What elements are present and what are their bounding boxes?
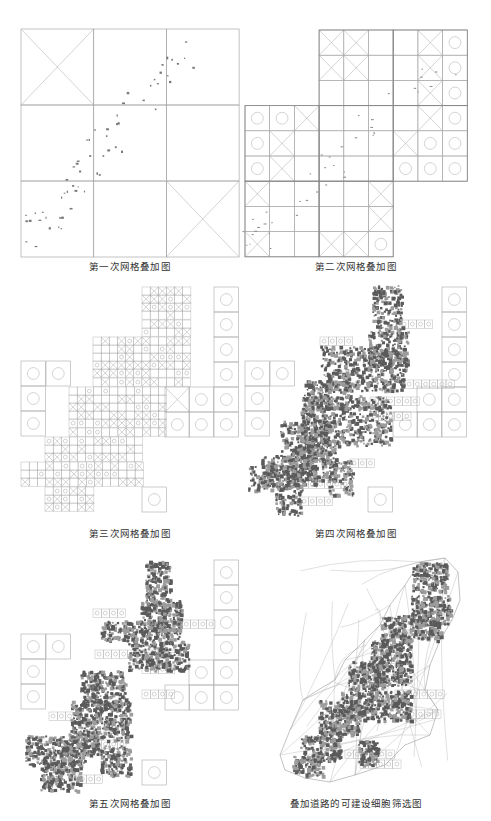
dense-cell — [402, 646, 405, 649]
dense-cell — [425, 604, 428, 607]
dense-cell — [305, 764, 308, 767]
dense-cell — [422, 586, 424, 588]
dense-cell — [429, 623, 433, 627]
dense-cell — [404, 629, 406, 631]
dense-cell — [374, 697, 377, 700]
dense-cell — [374, 763, 376, 765]
dense-cell — [370, 703, 372, 705]
circle-mark-icon — [388, 752, 392, 756]
dense-cell — [327, 731, 329, 733]
dense-cell — [401, 661, 403, 663]
dense-cell — [405, 660, 408, 663]
dense-cell — [383, 652, 386, 655]
dense-cell — [413, 567, 416, 570]
dense-cell — [349, 672, 351, 674]
dense-cell — [312, 755, 315, 758]
dense-cell — [439, 590, 442, 593]
dense-cell — [407, 653, 410, 656]
dense-cell — [431, 619, 433, 621]
dense-cell — [384, 627, 387, 630]
dense-cell — [308, 774, 311, 777]
dense-cell — [311, 747, 314, 750]
dense-cell — [418, 624, 422, 628]
dense-cell — [429, 570, 431, 572]
dense-cell — [412, 587, 414, 589]
dense-cell — [386, 640, 389, 643]
dense-cell — [353, 673, 355, 675]
dense-cell — [335, 753, 337, 755]
dense-cell — [354, 701, 358, 705]
dense-cell — [404, 653, 406, 655]
dense-cell — [373, 654, 375, 656]
caption-road-overlay: 叠加道路的可建设细胞筛选图 — [290, 796, 423, 810]
circle-mark-icon — [422, 692, 426, 696]
dense-cell — [416, 600, 419, 603]
dense-cell — [319, 741, 322, 744]
dense-cell — [337, 713, 339, 715]
dense-cell — [401, 702, 404, 705]
dense-cell — [402, 628, 404, 630]
dense-cell — [334, 709, 337, 712]
dense-cell — [372, 688, 376, 692]
dense-cell — [316, 748, 319, 751]
dense-cell — [390, 631, 392, 633]
dense-cell — [391, 684, 394, 687]
dense-cell — [420, 630, 423, 633]
dense-cell — [376, 715, 379, 718]
dense-cell — [400, 708, 403, 711]
dense-cell — [446, 617, 450, 621]
dense-cell — [449, 598, 451, 600]
dense-cell — [304, 754, 306, 756]
dense-cell — [427, 584, 430, 587]
dense-cell — [400, 681, 402, 683]
dense-cell — [353, 682, 356, 685]
dense-cell — [384, 624, 387, 627]
dense-cell — [327, 749, 329, 751]
dense-cell — [449, 606, 452, 609]
dense-cell — [318, 768, 320, 770]
dense-cell — [317, 775, 319, 777]
dense-cell — [322, 773, 325, 776]
dense-cell — [359, 762, 361, 764]
dense-cell — [322, 775, 326, 779]
dense-cell — [400, 675, 403, 678]
dense-cell — [415, 614, 417, 616]
dense-cell — [314, 741, 316, 743]
dense-cell — [371, 648, 373, 650]
dense-cell — [389, 646, 393, 650]
dense-cell — [420, 569, 424, 573]
dense-cell — [403, 680, 405, 682]
dense-cell — [414, 633, 417, 636]
dense-cell — [427, 637, 431, 641]
dense-cell — [374, 704, 376, 706]
dense-cell — [301, 761, 304, 764]
dense-cell — [370, 669, 373, 672]
dense-cell — [432, 609, 434, 611]
dense-cell — [377, 649, 380, 652]
road-line — [341, 605, 390, 627]
dense-cell — [401, 715, 404, 718]
dense-cell — [317, 735, 319, 737]
dense-cell — [358, 744, 360, 746]
dense-cell — [437, 571, 441, 575]
dense-cell — [342, 725, 345, 728]
dense-cell — [389, 714, 393, 718]
dense-cell — [380, 637, 383, 640]
dense-cell — [404, 674, 406, 676]
dense-cell — [372, 695, 374, 697]
dense-cell — [443, 601, 445, 603]
dense-cell — [430, 603, 434, 607]
dense-cell — [443, 620, 446, 623]
dense-cell — [405, 712, 408, 715]
dense-cell — [418, 616, 421, 619]
dense-cell — [337, 743, 340, 746]
dense-cell — [392, 651, 394, 653]
dense-cell — [425, 629, 427, 631]
dense-cell — [427, 617, 429, 619]
dense-cell — [336, 739, 339, 742]
circle-mark-icon — [387, 762, 391, 766]
dense-cell — [358, 675, 360, 677]
dense-cell — [378, 677, 380, 679]
dense-cell — [389, 649, 392, 652]
dense-cell — [322, 736, 324, 738]
